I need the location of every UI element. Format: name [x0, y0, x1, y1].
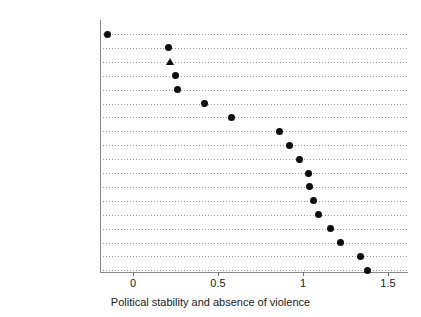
data-point-circle[interactable] — [201, 100, 208, 107]
gridline — [100, 159, 408, 160]
data-point-circle[interactable] — [305, 170, 312, 177]
data-point-circle[interactable] — [286, 142, 293, 149]
data-point-circle[interactable] — [296, 156, 303, 163]
x-axis-spine — [100, 272, 408, 273]
gridline — [100, 243, 408, 244]
x-axis-tick-label: 1.5 — [368, 278, 408, 289]
gridline — [100, 173, 408, 174]
data-point-circle[interactable] — [228, 114, 235, 121]
x-axis-label: Political stability and absence of viole… — [0, 296, 421, 308]
gridline — [100, 62, 408, 63]
x-axis-tick-label: 0 — [113, 278, 153, 289]
x-axis-tick-label: 1 — [283, 278, 323, 289]
data-point-circle[interactable] — [364, 267, 371, 274]
gridline — [100, 270, 408, 271]
y-axis-spine — [100, 20, 101, 273]
gridline — [100, 104, 408, 105]
dot-plot-figure: GreeceFranceItalyUnited KingdomSpainBelg… — [0, 0, 421, 317]
x-axis-tick — [133, 272, 134, 276]
gridline — [100, 48, 408, 49]
x-axis-tick — [388, 272, 389, 276]
data-point-circle[interactable] — [337, 239, 344, 246]
data-point-circle[interactable] — [327, 225, 334, 232]
gridline — [100, 229, 408, 230]
gridline — [100, 215, 408, 216]
data-point-circle[interactable] — [315, 211, 322, 218]
gridline — [100, 76, 408, 77]
gridline — [100, 90, 408, 91]
data-point-circle[interactable] — [276, 128, 283, 135]
gridline — [100, 34, 408, 35]
x-axis-tick — [303, 272, 304, 276]
x-axis-tick-label: 0.5 — [198, 278, 238, 289]
data-point-circle[interactable] — [104, 31, 111, 38]
x-axis-tick — [218, 272, 219, 276]
gridline — [100, 187, 408, 188]
data-point-triangle[interactable] — [166, 58, 174, 65]
gridline — [100, 145, 408, 146]
gridline — [100, 131, 408, 132]
gridline — [100, 201, 408, 202]
data-point-circle[interactable] — [310, 197, 317, 204]
gridline — [100, 117, 408, 118]
data-point-circle[interactable] — [174, 86, 181, 93]
